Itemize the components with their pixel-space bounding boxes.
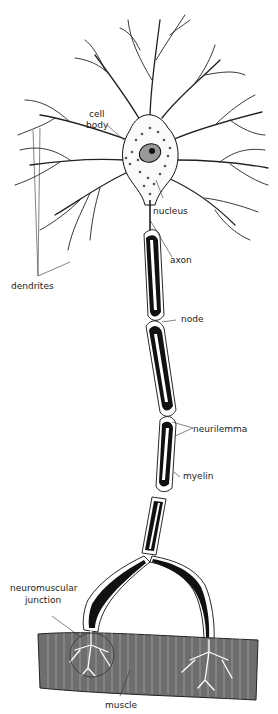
cell-body-shape (123, 115, 179, 205)
label-nucleus: nucleus (153, 206, 188, 216)
label-muscle: muscle (105, 700, 138, 710)
label-axon: axon (170, 255, 192, 265)
label-nmj-1: neuromuscular (10, 583, 78, 593)
label-myelin: myelin (183, 471, 213, 481)
label-nmj-2: junction (24, 595, 61, 605)
neuron-diagram: cell body nucleus axon dendrites node ne… (0, 0, 278, 714)
label-node: node (181, 314, 204, 324)
muscle-fiber (38, 630, 258, 700)
label-dendrites: dendrites (11, 281, 54, 291)
label-cell-body-1: cell (89, 109, 105, 119)
label-cell-body-2: body (86, 120, 109, 130)
label-neurilemma: neurilemma (193, 424, 247, 434)
axon-shape (83, 200, 214, 642)
